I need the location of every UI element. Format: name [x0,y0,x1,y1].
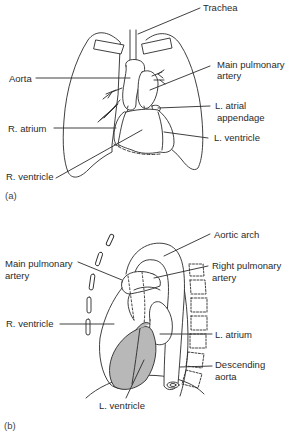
label-main-pulmonary-artery-line1: Main pulmonary [217,59,285,70]
label-r-ventricle: R. ventricle [6,171,54,182]
label-r-ventricle: R. ventricle [6,318,54,329]
leader-descending-aorta [180,366,212,367]
leader-aortic-arch [164,234,210,256]
pulmonary-branch-right-lower [98,100,120,122]
main-pulmonary-artery-shape [121,271,160,294]
panel-a-diagram [0,0,293,220]
pulmonary-artery-shape [138,71,158,109]
label-right-pulmonary-artery-line2: artery [212,272,236,283]
left-lung-apex-band [142,38,172,54]
label-right-pulmonary-artery-line1: Right pulmonary [212,260,281,271]
right-lung [63,33,120,177]
label-r-atrium: R. atrium [8,123,47,134]
label-l-ventricle: L. ventricle [99,400,145,411]
sternum-segment-3 [89,274,95,290]
sternum-segment-2 [95,252,103,267]
label-l-ventricle: L. ventricle [214,132,260,143]
panel-a-tag: (a) [5,190,17,201]
heart-anatomy-figure: Trachea Aorta Main pulmonary artery L. a… [0,0,293,440]
sternum-segment-1 [106,234,115,247]
label-descending-aorta-line1: Descending [215,359,265,370]
sternum-segment-5 [86,319,90,335]
label-descending-aorta-line2: aorta [215,371,237,382]
label-l-atrial-appendage-line1: L. atrial [215,100,246,111]
leader-main-pulmonary-artery [150,66,210,90]
label-aortic-arch: Aortic arch [214,229,259,240]
leader-main-pulmonary-artery [78,262,122,280]
leader-l-atrial-appendage [158,106,210,108]
label-main-pulmonary-artery-line2: artery [5,270,29,281]
label-main-pulmonary-artery-line1: Main pulmonary [5,258,73,269]
label-l-atrium: L. atrium [215,329,252,340]
label-trachea: Trachea [203,2,238,13]
panel-b-tag: (b) [4,420,16,431]
label-main-pulmonary-artery-line2: artery [217,70,241,81]
pulmonary-branch-right-upper [103,88,122,99]
ventricles-shape [118,109,174,153]
leader-r-ventricle [56,130,142,178]
label-aorta: Aorta [9,73,32,84]
sternum-segment-4 [87,297,91,313]
leader-trachea [138,8,200,34]
label-l-atrial-appendage-line2: appendage [217,112,265,123]
descending-aorta-end [167,382,179,388]
